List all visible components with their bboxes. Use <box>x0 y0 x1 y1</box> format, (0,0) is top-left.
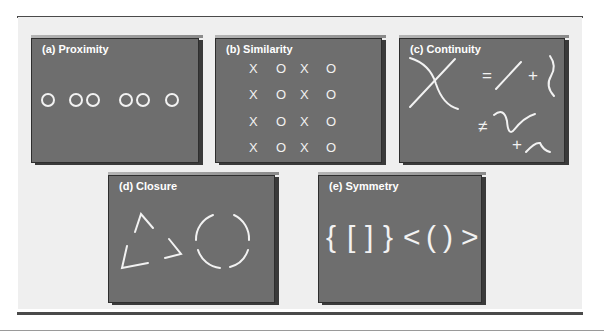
closure-shapes <box>109 176 276 304</box>
left-bracket: [ <box>347 220 355 254</box>
panel-symmetry: (e) Symmetry { [ ] } < ( ) > <box>318 175 482 303</box>
panel-continuity: (c) Continuity = + ≠ + <box>399 38 565 163</box>
grid-cell: X <box>300 61 309 76</box>
plus-sign: + <box>512 135 522 155</box>
grid-cell: O <box>326 114 336 129</box>
panel-title: (e) Symmetry <box>329 180 399 192</box>
grid-cell: X <box>249 61 258 76</box>
grid-cell: X <box>300 140 309 155</box>
proximity-circles <box>32 39 200 164</box>
panel-closure: (d) Closure <box>108 175 275 303</box>
grid-cell: X <box>249 114 258 129</box>
grid-cell: X <box>249 140 258 155</box>
grid-cell: X <box>300 87 309 102</box>
grid-cell: O <box>276 61 286 76</box>
page-rule <box>0 330 604 331</box>
plus-sign: + <box>528 66 538 86</box>
panel-proximity: (a) Proximity <box>31 38 199 163</box>
equals-sign: = <box>482 66 492 86</box>
continuity-drawing <box>400 39 566 164</box>
right-brace: } <box>383 220 393 254</box>
grid-cell: O <box>326 87 336 102</box>
grid-cell: X <box>300 114 309 129</box>
grid-cell: O <box>276 114 286 129</box>
grid-cell: O <box>326 140 336 155</box>
not-equals-sign: ≠ <box>478 117 487 137</box>
grid-cell: O <box>276 87 286 102</box>
right-bracket: ] <box>365 220 373 254</box>
grid-cell: X <box>249 87 258 102</box>
left-brace: { <box>326 220 336 254</box>
grid-cell: O <box>326 61 336 76</box>
less-than: < <box>403 220 421 254</box>
right-paren: ) <box>443 220 453 254</box>
figure-bottom-rule <box>17 312 583 315</box>
greater-than: > <box>461 220 479 254</box>
panel-similarity: (b) Similarity X O X O X O X O X O X O X… <box>215 38 382 163</box>
left-paren: ( <box>426 220 436 254</box>
grid-cell: O <box>276 140 286 155</box>
panel-title: (b) Similarity <box>226 43 293 55</box>
